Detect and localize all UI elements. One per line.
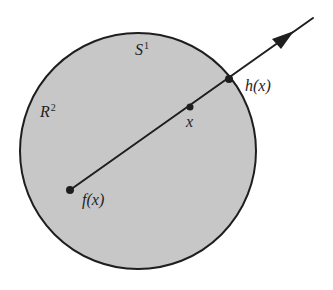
disk-region bbox=[20, 33, 256, 269]
label-x: x bbox=[186, 114, 193, 130]
label-s1-base: S bbox=[135, 41, 143, 58]
label-r2-base: R bbox=[40, 103, 50, 120]
label-h-x: h(x) bbox=[245, 78, 271, 94]
arrowhead-icon bbox=[272, 31, 294, 49]
label-s1-sup: 1 bbox=[144, 40, 149, 51]
diagram-canvas bbox=[0, 0, 333, 290]
label-r2: R2 bbox=[40, 103, 56, 120]
point-f-x bbox=[66, 186, 74, 194]
label-s1: S1 bbox=[135, 41, 149, 58]
label-f-x: f(x) bbox=[82, 192, 104, 208]
point-h-x bbox=[225, 75, 233, 83]
point-x bbox=[187, 104, 194, 111]
label-r2-sup: 2 bbox=[51, 102, 56, 113]
